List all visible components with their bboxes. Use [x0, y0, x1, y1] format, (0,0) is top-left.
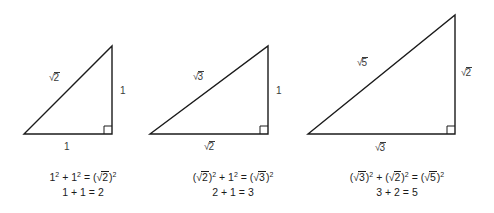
triangle-2-caption-line2: 2 + 1 = 3	[156, 185, 310, 200]
triangle-2-caption-line1: (√2)2 + 12 = (√3)2	[156, 170, 310, 185]
triangle-2-right-angle-icon	[260, 126, 268, 134]
triangle-2-shape	[150, 46, 268, 134]
triangle-1-caption: 12 + 12 = (√2)2 1 + 1 = 2	[8, 170, 158, 200]
triangle-1-caption-line1: 12 + 12 = (√2)2	[8, 170, 158, 185]
triangle-3-outline	[308, 15, 455, 134]
triangle-2-vertical-leg-label: 1	[276, 85, 282, 96]
triangle-3-caption: (√3)2 + (√2)2 = (√5)2 3 + 2 = 5	[306, 170, 488, 200]
triangle-3-hypotenuse-label: √5	[357, 57, 368, 68]
triangle-2-hypotenuse-label: √3	[193, 71, 204, 82]
triangle-3-shape	[308, 15, 455, 134]
triangle-1-right-angle-icon	[104, 126, 112, 134]
triangle-1-hypotenuse-label: √2	[49, 72, 60, 83]
triangle-2-base-label: √2	[204, 141, 215, 152]
triangle-1-base-label: 1	[64, 141, 70, 152]
triangle-3-right-angle-icon	[447, 126, 455, 134]
triangle-1-shape	[24, 46, 112, 134]
triangle-3-base-label: √3	[375, 142, 386, 153]
triangle-1-caption-line2: 1 + 1 = 2	[8, 185, 158, 200]
triangle-2-caption: (√2)2 + 12 = (√3)2 2 + 1 = 3	[156, 170, 310, 200]
triangle-1-outline	[24, 46, 112, 134]
triangle-3-vertical-leg-label: √2	[461, 67, 472, 78]
triangle-2-outline	[150, 46, 268, 134]
triangle-3-caption-line1: (√3)2 + (√2)2 = (√5)2	[306, 170, 488, 185]
triangle-3-caption-line2: 3 + 2 = 5	[306, 185, 488, 200]
pythagorean-triangles-figure: √2 1 1 √3 1 √2 √5 √2 √3 12 + 12 = (√2)2 …	[0, 0, 494, 213]
triangle-1-vertical-leg-label: 1	[120, 85, 126, 96]
